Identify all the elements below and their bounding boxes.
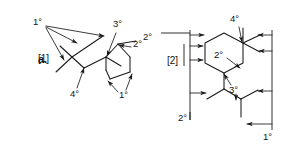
label-1-primary-bottom-right: 1°	[119, 89, 128, 100]
structure-2-labels: [2] 2° 2° 4° 3° 2° 1°	[143, 13, 272, 142]
label-2-quaternary-top: 4°	[230, 13, 239, 24]
structure-1-skeleton	[56, 36, 136, 79]
label-2-secondary-ring: 2°	[214, 49, 223, 60]
label-1-secondary-right: 2°	[133, 38, 142, 49]
organic-structure-figure: a. [1] 1° 4° 3° 2° 1°	[0, 0, 282, 148]
label-1-tertiary-top-right: 3°	[113, 18, 122, 29]
structure-1-leader-lines	[46, 26, 132, 92]
structure-2-skeleton	[205, 28, 260, 117]
label-2-secondary-far-left: 2°	[143, 31, 152, 42]
label-1-quaternary-bottom: 4°	[70, 88, 79, 99]
figure-canvas: a. [1] 1° 4° 3° 2° 1°	[0, 0, 282, 148]
label-2-secondary-bottom-left: 2°	[178, 112, 187, 123]
structure-1-tag: [1]	[38, 53, 49, 64]
structure-2-tag: [2]	[167, 55, 178, 66]
label-1-primary-top-left: 1°	[33, 16, 42, 27]
label-2-primary-bottom-right: 1°	[263, 131, 272, 142]
label-2-tertiary-mid: 3°	[229, 84, 238, 95]
